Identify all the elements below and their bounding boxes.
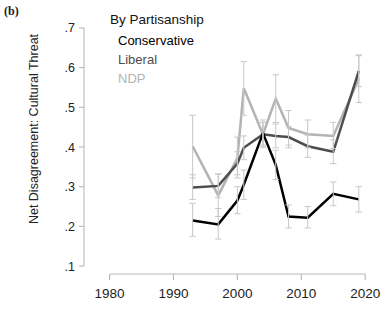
error-bars-group bbox=[189, 55, 362, 239]
line-chart: .1.2.3.4.5.6.719801990200020102020 By Pa… bbox=[0, 0, 388, 316]
y-tick-label: .6 bbox=[65, 61, 75, 75]
y-tick-label: .3 bbox=[65, 180, 75, 194]
figure-panel-b: (b) Net Disagreement: Cultural Threat .1… bbox=[0, 0, 388, 316]
y-tick-label: .4 bbox=[65, 141, 75, 155]
y-tick-label: .2 bbox=[65, 220, 75, 234]
y-tick-label: .7 bbox=[65, 21, 75, 35]
legend-title: By Partisanship bbox=[110, 12, 204, 27]
x-tick-label: 2000 bbox=[222, 286, 252, 301]
legend: By PartisanshipConservativeLiberalNDP bbox=[110, 12, 204, 86]
y-tick-label: .1 bbox=[65, 260, 75, 274]
x-tick-label: 2020 bbox=[350, 286, 380, 301]
legend-item-liberal: Liberal bbox=[118, 52, 157, 67]
x-tick-label: 1990 bbox=[158, 286, 188, 301]
x-tick-label: 1980 bbox=[95, 286, 125, 301]
y-tick-label: .5 bbox=[65, 101, 75, 115]
x-tick-label: 2010 bbox=[286, 286, 316, 301]
legend-item-conservative: Conservative bbox=[118, 33, 194, 48]
legend-item-ndp: NDP bbox=[118, 71, 145, 86]
